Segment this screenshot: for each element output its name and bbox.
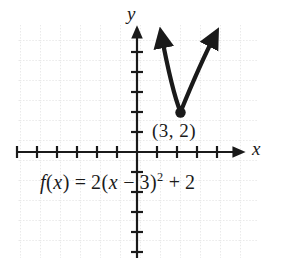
- equation-equals: =: [70, 171, 91, 193]
- equation-plus-sign: +: [164, 171, 185, 193]
- graph-figure: y x (3, 2) f(x) = 2(x − 3)2 + 2: [0, 0, 283, 267]
- y-axis-label: y: [127, 4, 135, 23]
- equation-minus-sign: −: [118, 171, 139, 193]
- coordinate-plane-svg: [0, 0, 283, 267]
- x-axis-label: x: [252, 139, 260, 158]
- equation-leading-coefficient: 2: [91, 171, 102, 193]
- function-equation-label: f(x) = 2(x − 3)2 + 2: [40, 170, 196, 194]
- equation-h-value: 3: [139, 171, 150, 193]
- equation-group-variable: x: [109, 171, 118, 193]
- equation-variable: x: [53, 171, 62, 193]
- equation-group-open-paren: (: [102, 171, 109, 193]
- vertex-point-marker: [175, 107, 185, 117]
- equation-k-value: 2: [185, 171, 196, 193]
- equation-close-paren: ): [63, 171, 70, 193]
- vertex-coordinate-label: (3, 2): [152, 120, 196, 142]
- equation-exponent: 2: [157, 170, 164, 184]
